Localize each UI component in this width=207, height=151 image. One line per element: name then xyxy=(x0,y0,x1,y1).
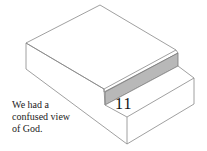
step-diagram: 11 We had a confused view of God. xyxy=(0,0,207,151)
caption-line: confused view xyxy=(12,111,92,123)
caption: We had a confused view of God. xyxy=(12,99,92,135)
step-number: 11 xyxy=(115,96,132,112)
caption-line: of God. xyxy=(12,123,92,135)
caption-line: We had a xyxy=(12,99,92,111)
